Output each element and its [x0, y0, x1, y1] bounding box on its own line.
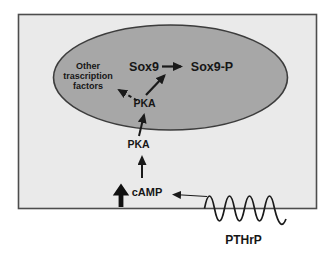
pathway-diagram-canvas: Other trascription factors Sox9 Sox9-P P…: [0, 0, 335, 256]
label-other-factors-line2: trascription: [63, 71, 113, 81]
label-sox9-p: Sox9-P: [191, 60, 233, 74]
label-pthrp: PTHrP: [225, 233, 262, 247]
label-camp: cAMP: [132, 186, 163, 198]
pathway-figure: Other trascription factors Sox9 Sox9-P P…: [0, 0, 335, 256]
label-sox9: Sox9: [129, 60, 159, 74]
label-other-factors-line3: factors: [73, 81, 103, 91]
label-other-factors-line1: Other: [76, 61, 101, 71]
label-pka-cytoplasm: PKA: [127, 138, 150, 150]
label-pka-nuclear: PKA: [133, 97, 156, 109]
